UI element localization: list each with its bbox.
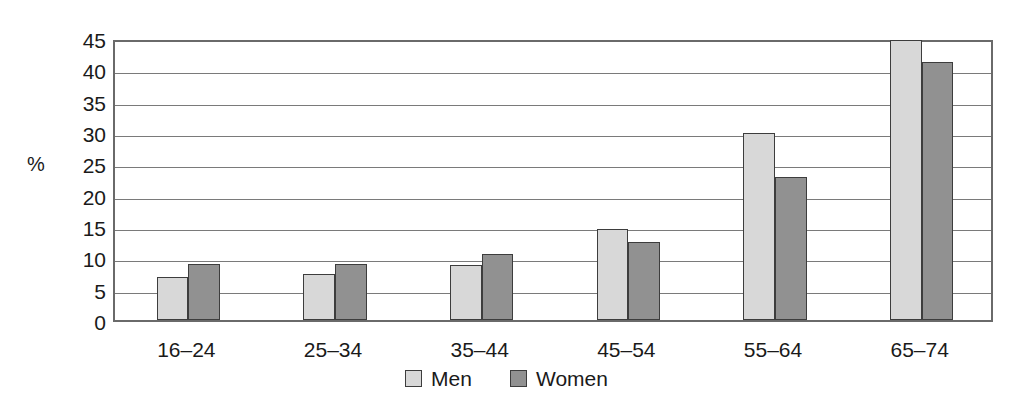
legend-label-men: Men — [431, 368, 472, 389]
x-axis-tick-65-74: 65–74 — [890, 338, 948, 362]
y-axis-tick-35: 35 — [56, 92, 106, 113]
bar-men-55-64 — [743, 133, 775, 320]
bar-group-45-54 — [597, 42, 660, 320]
chart-legend: MenWomen — [0, 368, 1013, 389]
bar-men-65-74 — [890, 40, 922, 320]
legend-label-women: Women — [536, 368, 608, 389]
y-axis-tick-40: 40 — [56, 61, 106, 82]
bar-men-35-44 — [450, 265, 482, 320]
bar-men-25-34 — [303, 274, 335, 320]
bar-women-45-54 — [628, 242, 660, 320]
x-axis-tick-35-44: 35–44 — [450, 338, 508, 362]
y-axis-unit-label: % — [16, 152, 56, 176]
dark-gray-swatch-icon — [510, 370, 527, 387]
legend-entry-men[interactable]: Men — [405, 368, 472, 389]
bar-women-16-24 — [188, 264, 220, 320]
plot-area — [113, 40, 993, 322]
y-axis-tick-30: 30 — [56, 124, 106, 145]
y-axis-tick-25: 25 — [56, 155, 106, 176]
bar-women-55-64 — [775, 177, 807, 320]
bar-group-55-64 — [743, 42, 806, 320]
y-axis-tick-15: 15 — [56, 218, 106, 239]
bar-men-45-54 — [597, 229, 629, 320]
bars-layer — [115, 42, 991, 320]
x-axis-tick-25-34: 25–34 — [304, 338, 362, 362]
y-axis-tick-10: 10 — [56, 249, 106, 270]
bar-women-65-74 — [922, 62, 954, 320]
y-axis-tick-5: 5 — [56, 280, 106, 301]
bar-group-16-24 — [157, 42, 220, 320]
x-axis-category-labels: 16–2425–3435–4445–5455–6465–74 — [113, 338, 993, 366]
bar-chart: % 051015202530354045 16–2425–3435–4445–5… — [0, 0, 1013, 410]
y-axis-tick-20: 20 — [56, 186, 106, 207]
bar-group-65-74 — [890, 42, 953, 320]
y-axis-tick-labels: 051015202530354045 — [56, 28, 106, 334]
bar-women-35-44 — [482, 254, 514, 320]
bar-women-25-34 — [335, 264, 367, 320]
light-gray-swatch-icon — [405, 370, 422, 387]
legend-entry-women[interactable]: Women — [510, 368, 608, 389]
bar-group-25-34 — [303, 42, 366, 320]
x-axis-tick-16-24: 16–24 — [157, 338, 215, 362]
y-axis-tick-0: 0 — [56, 312, 106, 333]
bar-men-16-24 — [157, 277, 189, 320]
bar-group-35-44 — [450, 42, 513, 320]
x-axis-tick-45-54: 45–54 — [597, 338, 655, 362]
y-axis-tick-45: 45 — [56, 30, 106, 51]
x-axis-tick-55-64: 55–64 — [744, 338, 802, 362]
